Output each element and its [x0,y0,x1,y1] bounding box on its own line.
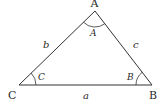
side-label-c: c [133,39,139,50]
side-c-line [95,11,152,85]
vertex-label-C: C [8,89,16,102]
angle-label-A: A [89,28,97,38]
angle-arc-B [136,72,142,85]
side-label-a: a [83,90,89,101]
vertex-label-A: A [90,0,100,10]
side-b-line [19,11,95,85]
angle-label-B: B [126,72,134,82]
angle-label-C: C [38,72,45,82]
vertex-label-B: B [149,89,157,102]
side-label-b: b [43,39,49,50]
triangle-diagram: A C B A C B b c a [0,0,167,104]
angle-arc-A [84,22,105,27]
angle-arc-C [31,73,36,85]
